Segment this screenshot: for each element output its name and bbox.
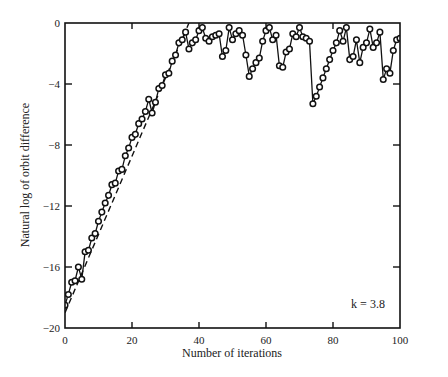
data-point [280, 64, 286, 70]
data-point [327, 57, 333, 63]
data-point [307, 39, 313, 45]
data-point [246, 74, 252, 80]
data-point [226, 25, 232, 31]
data-point [149, 110, 155, 116]
data-line [65, 28, 400, 306]
data-point [153, 100, 159, 106]
data-point [169, 58, 175, 64]
data-point [367, 26, 373, 32]
x-tick-label: 20 [127, 334, 139, 346]
data-point [173, 52, 179, 58]
data-point [112, 180, 118, 186]
data-point [106, 193, 112, 199]
data-point [146, 96, 152, 102]
y-tick-label: −20 [43, 322, 61, 334]
data-point [119, 167, 125, 173]
data-point [391, 48, 397, 54]
data-point [337, 28, 343, 34]
data-point [92, 231, 98, 237]
data-point [99, 209, 105, 215]
data-point [186, 46, 192, 52]
data-point [260, 39, 266, 45]
chart: 0204060801000−4−8−12−16−20 Number of ite… [0, 0, 448, 377]
y-tick-label: 0 [55, 17, 61, 29]
data-point [193, 37, 199, 43]
data-point [230, 37, 236, 43]
x-axis-title: Number of iterations [182, 346, 282, 360]
data-point [133, 132, 139, 138]
data-point [143, 109, 149, 115]
data-point [273, 32, 279, 38]
data-point [310, 101, 316, 107]
data-point [350, 54, 356, 60]
data-point [159, 83, 165, 89]
x-tick-label: 0 [62, 334, 68, 346]
data-point [317, 84, 323, 90]
x-tick-label: 60 [261, 334, 273, 346]
data-point [293, 34, 299, 40]
data-point [257, 55, 263, 61]
data-point [357, 60, 363, 66]
data-point [364, 40, 370, 46]
data-point [313, 93, 319, 99]
data-point [139, 116, 145, 122]
data-point [96, 218, 102, 224]
y-tick-label: −12 [43, 200, 60, 212]
data-point [324, 66, 330, 72]
x-tick-label: 40 [194, 334, 206, 346]
k-annotation: k = 3.8 [351, 297, 385, 311]
data-point [287, 46, 293, 52]
data-point [267, 25, 273, 31]
data-point [297, 25, 303, 31]
data-point [79, 276, 85, 282]
data-point [102, 200, 108, 206]
data-point [123, 153, 129, 159]
data-point [250, 66, 256, 72]
data-point [179, 37, 185, 43]
data-point [334, 40, 340, 46]
data-point [86, 247, 92, 253]
data-point [76, 264, 82, 270]
data-point [330, 48, 336, 54]
data-point [166, 71, 172, 77]
data-point [320, 75, 326, 81]
data-point [183, 29, 189, 35]
data-point [200, 25, 206, 31]
data-point [344, 25, 350, 31]
data-point [72, 278, 78, 284]
data-point [354, 37, 360, 43]
data-point [377, 29, 383, 35]
data-point [374, 40, 380, 46]
x-tick-label: 80 [328, 334, 340, 346]
data-point [220, 54, 226, 60]
y-axis-title: Natural log of orbit difference [18, 103, 32, 247]
y-tick-label: −8 [48, 139, 60, 151]
data-point [240, 32, 246, 38]
y-tick-label: −4 [48, 78, 60, 90]
y-tick-label: −16 [43, 261, 61, 273]
data-point [387, 71, 393, 77]
x-tick-label: 100 [392, 334, 409, 346]
data-point [66, 292, 72, 298]
data-point [243, 52, 249, 58]
data-point [223, 48, 229, 54]
data-point [340, 39, 346, 45]
data-point [216, 31, 222, 37]
data-point [380, 77, 386, 83]
plot-frame [65, 23, 400, 328]
plot-data-layer [62, 23, 403, 313]
data-point [126, 145, 132, 151]
